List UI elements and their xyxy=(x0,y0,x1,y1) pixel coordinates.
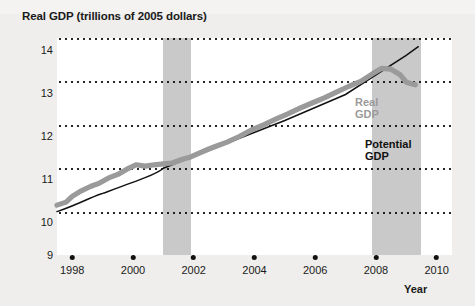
real-gdp-line xyxy=(57,68,415,205)
x-tick-label-2006: 2006 xyxy=(303,264,327,276)
x-tick-dot-2008 xyxy=(373,255,378,260)
y-tick-label-13: 13 xyxy=(29,87,53,99)
y-tick-label-9: 9 xyxy=(29,249,53,261)
y-tick-label-11: 11 xyxy=(29,173,53,185)
x-tick-dot-2010 xyxy=(434,255,439,260)
y-tick-label-10: 10 xyxy=(29,216,53,228)
x-tick-dot-2004 xyxy=(252,255,257,260)
x-tick-label-2002: 2002 xyxy=(181,264,205,276)
x-axis-name: Year xyxy=(404,283,427,295)
potential-gdp-annotation-line2: GDP xyxy=(365,150,389,162)
real-gdp-annotation-line2: GDP xyxy=(355,108,379,120)
real-gdp-annotation: RealGDP xyxy=(355,96,379,120)
x-tick-2000: 2000 xyxy=(121,255,145,276)
potential-gdp-annotation-line1: Potential xyxy=(365,138,411,150)
x-tick-dot-2000 xyxy=(130,255,135,260)
y-tick-label-12: 12 xyxy=(29,130,53,142)
x-tick-2010: 2010 xyxy=(424,255,448,276)
real-gdp-annotation-line1: Real xyxy=(355,96,378,108)
x-tick-label-2008: 2008 xyxy=(364,264,388,276)
x-tick-label-1998: 1998 xyxy=(60,264,84,276)
x-tick-label-2010: 2010 xyxy=(424,264,448,276)
x-tick-2008: 2008 xyxy=(364,255,388,276)
x-tick-label-2000: 2000 xyxy=(121,264,145,276)
chart-page: Real GDP (trillions of 2005 dollars) 14 … xyxy=(0,0,475,306)
chart-title: Real GDP (trillions of 2005 dollars) xyxy=(22,10,207,22)
x-tick-dot-2002 xyxy=(191,255,196,260)
potential-gdp-line xyxy=(57,47,418,212)
potential-gdp-annotation: PotentialGDP xyxy=(365,138,411,162)
x-tick-label-2004: 2004 xyxy=(242,264,266,276)
plot-area: RealGDP PotentialGDP xyxy=(57,38,452,255)
y-tick-label-14: 14 xyxy=(29,44,53,56)
x-tick-dot-2006 xyxy=(313,255,318,260)
x-tick-2002: 2002 xyxy=(181,255,205,276)
x-tick-2006: 2006 xyxy=(303,255,327,276)
x-tick-dot-1998 xyxy=(70,255,75,260)
x-tick-1998: 1998 xyxy=(60,255,84,276)
x-axis: 1998 2000 2002 2004 2006 2008 2010 xyxy=(57,255,452,301)
x-tick-2004: 2004 xyxy=(242,255,266,276)
